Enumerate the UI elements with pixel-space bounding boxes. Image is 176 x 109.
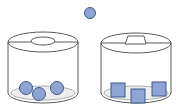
container-left [8,32,78,103]
container-right [101,33,171,103]
trapezoid-hole [125,36,146,44]
cube-shape [131,89,145,103]
cube-shape [152,82,166,96]
ball-shape [51,82,64,95]
ball-shape [20,82,33,95]
cube-shape [111,83,125,97]
circle-hole [31,37,55,45]
shape-sorter-diagram [0,0,176,109]
floating-ball [85,8,96,19]
ball-shape [33,88,46,101]
